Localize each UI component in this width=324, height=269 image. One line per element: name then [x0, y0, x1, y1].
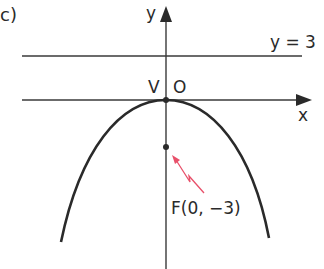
- vertex-point: [163, 97, 169, 103]
- directrix-label: y = 3: [270, 34, 316, 51]
- focus-label: F(0, −3): [171, 200, 241, 217]
- y-axis-label: y: [146, 5, 156, 22]
- parabola-curve: [61, 100, 269, 242]
- vertex-label: V: [148, 79, 160, 96]
- focus-point: [163, 144, 169, 150]
- y-axis-arrow-icon: [160, 6, 172, 22]
- focus-pointer-arrowhead-icon: [172, 155, 180, 164]
- part-label: c): [0, 6, 17, 24]
- origin-label: O: [173, 79, 186, 96]
- x-axis-label: x: [298, 107, 308, 124]
- focus-pointer-arrow: [176, 160, 204, 193]
